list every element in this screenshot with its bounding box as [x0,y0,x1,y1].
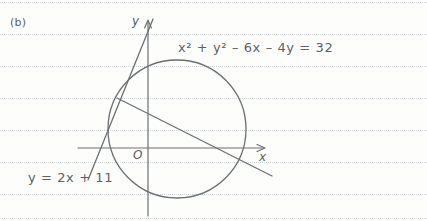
chord-line [117,98,272,176]
circle-equation-label: x² + y² – 6x – 4y = 32 [178,40,333,55]
line-equation-label: y = 2x + 11 [28,170,113,185]
circle-line-diagram [0,0,427,222]
origin-label: O [133,148,142,162]
part-label: (b) [10,16,26,29]
y-axis [145,20,152,216]
y-axis-label: y [132,14,139,28]
x-axis [78,145,265,152]
x-axis-label: x [259,150,266,164]
worksheet-page: (b) x² + y² – 6x – 4y = 32 y = 2x + 11 y… [0,0,427,222]
